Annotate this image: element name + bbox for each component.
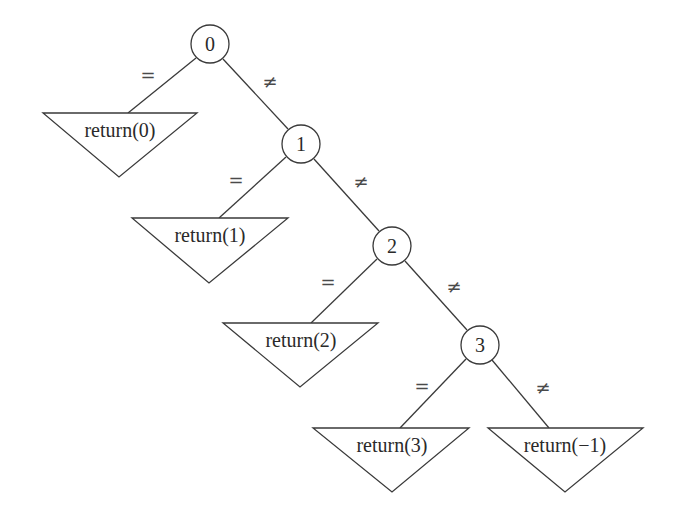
edge-0-neq — [223, 59, 288, 129]
node-label: 3 — [475, 334, 485, 356]
leaf-return-3: return(3) — [313, 428, 469, 492]
edge-label-1-eq: = — [228, 170, 243, 191]
edge-label-3-eq: = — [414, 376, 429, 397]
decision-tree-diagram: = ≠ = ≠ = ≠ = ≠ return(0) return(1) retu… — [0, 0, 680, 511]
leaf-return-1: return(1) — [132, 218, 288, 283]
edge-label-0-neq: ≠ — [262, 71, 277, 92]
edge-label-2-eq: = — [320, 272, 335, 293]
leaf-label: return(0) — [84, 119, 155, 142]
edge-1-neq — [314, 159, 379, 231]
node-label: 0 — [205, 33, 215, 55]
leaf-label: return(1) — [174, 224, 245, 247]
edge-0-eq — [128, 58, 196, 113]
edge-label-0-eq: = — [140, 65, 155, 86]
leaf-label: return(−1) — [524, 434, 606, 457]
edge-label-2-neq: ≠ — [446, 276, 461, 297]
leaf-return-2: return(2) — [223, 323, 378, 387]
edge-label-1-neq: ≠ — [353, 171, 368, 192]
leaf-return-0: return(0) — [43, 113, 197, 177]
edge-label-3-neq: ≠ — [535, 377, 550, 398]
node-label: 1 — [296, 133, 306, 155]
node-1: 1 — [282, 125, 320, 163]
node-3: 3 — [461, 326, 499, 364]
node-0: 0 — [191, 25, 229, 63]
leaf-return-minus-1: return(−1) — [488, 428, 643, 492]
edge-3-eq — [400, 359, 466, 428]
leaf-label: return(3) — [356, 434, 427, 457]
node-2: 2 — [373, 227, 411, 265]
leaf-label: return(2) — [265, 329, 336, 352]
node-label: 2 — [387, 235, 397, 257]
